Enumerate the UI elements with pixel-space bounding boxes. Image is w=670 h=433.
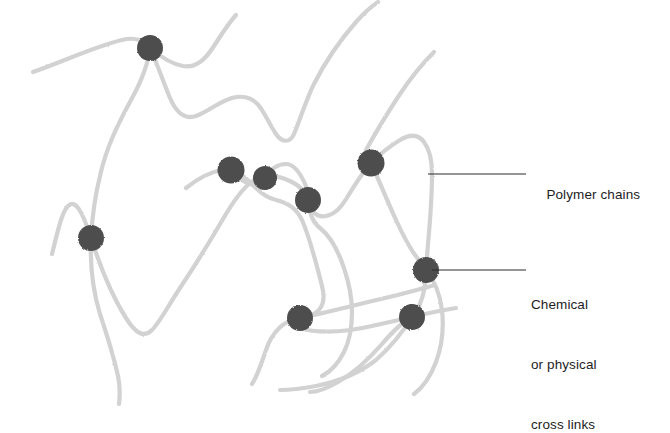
leader-lines-layer <box>428 174 526 270</box>
cross-link-node <box>218 157 245 184</box>
cross-link-node <box>399 304 425 330</box>
polymer-chain <box>151 2 378 141</box>
cross-link-node <box>295 187 321 213</box>
cross-links-label: Chemical or physical cross links <box>531 255 597 433</box>
cross-links-label-line1: Chemical <box>531 295 597 315</box>
polymer-chain <box>231 164 352 376</box>
cross-links-layer <box>78 35 439 331</box>
cross-links-label-line2: or physical <box>531 355 597 375</box>
cross-link-node <box>358 150 385 177</box>
polymer-chain <box>366 52 434 150</box>
polymer-chains-layer <box>33 2 456 404</box>
cross-links-label-line3: cross links <box>531 415 597 433</box>
cross-link-node <box>137 35 163 61</box>
cross-link-node <box>253 166 277 190</box>
polymer-chains-label: Polymer chains <box>531 165 640 225</box>
polymer-chain <box>91 48 150 404</box>
cross-link-node <box>78 225 104 251</box>
cross-link-node <box>287 305 313 331</box>
polymer-chain <box>33 15 236 72</box>
polymer-chains-label-text: Polymer chains <box>546 187 640 202</box>
